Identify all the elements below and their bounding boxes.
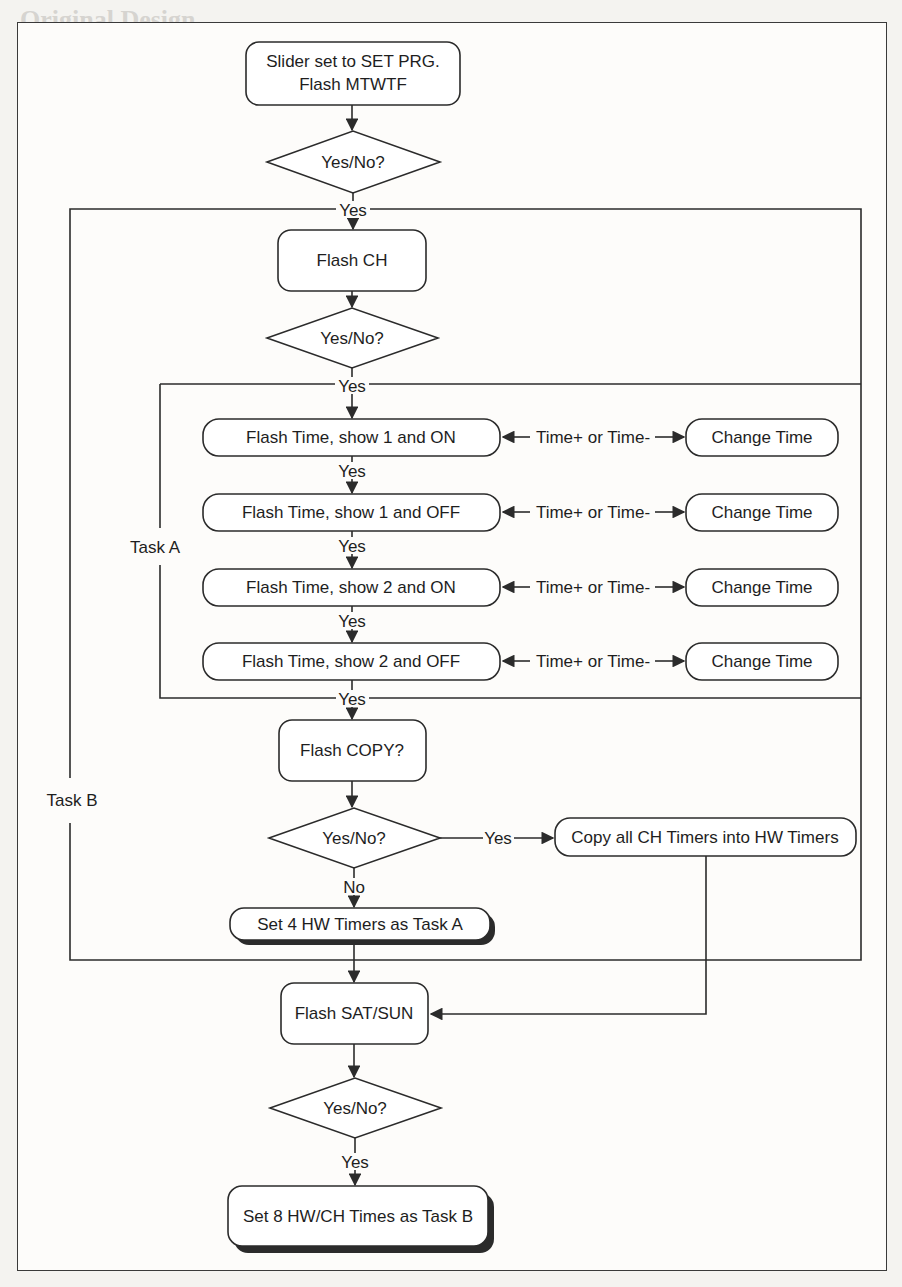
edge-label-time: Time+ or Time-	[536, 503, 650, 522]
svg-text:Flash CH: Flash CH	[317, 251, 388, 270]
flash-time-box: Flash Time, show 2 and OFF	[242, 652, 460, 671]
svg-text:Flash MTWTF: Flash MTWTF	[299, 75, 407, 94]
edge-label-yes: Yes	[484, 829, 512, 848]
svg-text:Slider set to SET PRG.: Slider set to SET PRG.	[266, 52, 440, 71]
task-a-row: Flash Time, show 1 and OFF Time+ or Time…	[203, 494, 838, 531]
flash-ch-box: Flash CH	[278, 230, 426, 291]
decision-4: Yes/No?	[270, 1078, 441, 1138]
svg-text:Flash SAT/SUN: Flash SAT/SUN	[295, 1004, 414, 1023]
set-task-b-box: Set 8 HW/CH Times as Task B	[228, 1186, 494, 1253]
edge-label-no: No	[343, 878, 365, 897]
edge-label-yes: Yes	[341, 1153, 369, 1172]
change-time-box: Change Time	[711, 503, 812, 522]
set-task-a-box: Set 4 HW Timers as Task A	[230, 908, 495, 945]
edge-label-yes: Yes	[338, 537, 366, 556]
svg-text:Yes/No?: Yes/No?	[323, 1099, 387, 1118]
task-b-label: Task B	[46, 791, 97, 810]
flash-time-box: Flash Time, show 2 and ON	[246, 578, 456, 597]
task-a-label: Task A	[130, 538, 181, 557]
start-box: Slider set to SET PRG. Flash MTWTF	[246, 42, 460, 105]
svg-text:Yes/No?: Yes/No?	[322, 829, 386, 848]
edge-label-yes: Yes	[339, 201, 367, 220]
flash-time-box: Flash Time, show 1 and OFF	[242, 503, 460, 522]
svg-text:Yes/No?: Yes/No?	[320, 329, 384, 348]
flash-time-box: Flash Time, show 1 and ON	[246, 428, 456, 447]
change-time-box: Change Time	[711, 652, 812, 671]
edge-label-time: Time+ or Time-	[536, 428, 650, 447]
flowchart: Slider set to SET PRG. Flash MTWTF Yes/N…	[0, 0, 902, 1287]
svg-text:Copy all CH Timers into HW Tim: Copy all CH Timers into HW Timers	[571, 828, 838, 847]
task-a-row: Flash Time, show 2 and OFF Time+ or Time…	[203, 643, 838, 680]
page: Original Design Slider set to SET PRG. F…	[0, 0, 902, 1287]
edge-label-yes: Yes	[338, 462, 366, 481]
edge-label-yes: Yes	[338, 690, 366, 709]
change-time-box: Change Time	[711, 578, 812, 597]
flash-copy-box: Flash COPY?	[279, 720, 426, 781]
decision-1: Yes/No?	[267, 131, 440, 193]
edge-label-time: Time+ or Time-	[536, 652, 650, 671]
edge-label-time: Time+ or Time-	[536, 578, 650, 597]
svg-text:Set 4 HW Timers as Task A: Set 4 HW Timers as Task A	[257, 915, 463, 934]
task-a-row: Flash Time, show 1 and ON Time+ or Time-…	[203, 419, 838, 456]
task-a-row: Flash Time, show 2 and ON Time+ or Time-…	[203, 569, 838, 606]
copy-timers-box: Copy all CH Timers into HW Timers	[555, 818, 856, 856]
decision-3: Yes/No?	[269, 808, 440, 868]
decision-2: Yes/No?	[267, 308, 438, 368]
svg-text:Set 8 HW/CH Times as Task B: Set 8 HW/CH Times as Task B	[243, 1207, 473, 1226]
svg-text:Flash COPY?: Flash COPY?	[300, 741, 404, 760]
flash-satsun-box: Flash SAT/SUN	[281, 983, 428, 1044]
edge-label-yes: Yes	[338, 612, 366, 631]
edge-label-yes: Yes	[338, 377, 366, 396]
change-time-box: Change Time	[711, 428, 812, 447]
svg-text:Yes/No?: Yes/No?	[321, 153, 385, 172]
